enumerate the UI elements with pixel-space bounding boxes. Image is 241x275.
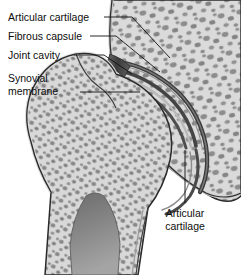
label-synovial-membrane-line1: Synovial [8, 72, 48, 84]
label-articular-cartilage-top: Articular cartilage [8, 11, 89, 23]
label-articular-cartilage-bottom-line2: cartilage [165, 220, 205, 232]
hip-joint-diagram: Articular cartilage Fibrous capsule Join… [0, 0, 241, 275]
label-fibrous-capsule: Fibrous capsule [8, 30, 82, 42]
label-synovial-membrane-line2: membrane [8, 85, 58, 97]
label-articular-cartilage-bottom-line1: Articular [166, 207, 205, 219]
anatomy-figure-page: Articular cartilage Fibrous capsule Join… [0, 0, 241, 275]
label-joint-cavity: Joint cavity [8, 49, 61, 61]
